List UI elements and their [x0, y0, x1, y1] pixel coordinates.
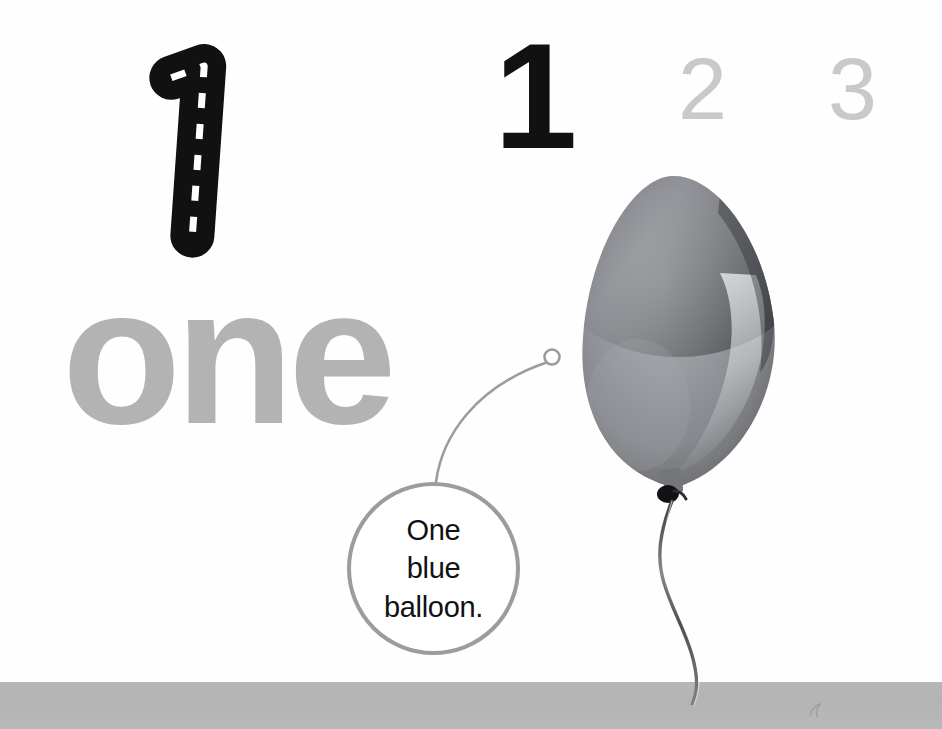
number-word-one: one: [62, 258, 391, 453]
balloon-body: [560, 165, 808, 493]
numeral-sequence: 1 2 3: [0, 0, 942, 160]
balloon-illustration: [560, 165, 820, 705]
worksheet-page: 1 2 3 one: [0, 0, 942, 729]
numeral-current-1[interactable]: 1: [494, 21, 575, 171]
caption-leader-line: [420, 340, 580, 500]
balloon-knot: [657, 485, 679, 503]
leader-endpoint-circle-icon: [545, 350, 560, 365]
caption-text: One blue balloon.: [384, 511, 483, 626]
numeral-next-3[interactable]: 3: [828, 45, 877, 133]
caption-bubble[interactable]: One blue balloon.: [347, 482, 520, 655]
numeral-next-2[interactable]: 2: [678, 45, 727, 133]
